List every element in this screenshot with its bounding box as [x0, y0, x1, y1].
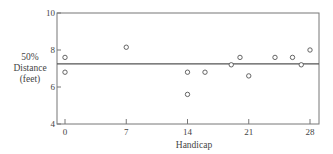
- data-point: [273, 55, 277, 59]
- data-point: [299, 63, 303, 67]
- data-point: [290, 55, 294, 59]
- data-points: [63, 45, 312, 97]
- scatter-chart: 46810 07142128 50% Distance (feet) Handi…: [0, 0, 333, 154]
- x-tick-label: 14: [183, 127, 193, 137]
- y-axis: 46810: [46, 8, 61, 129]
- data-point: [185, 92, 189, 96]
- data-point: [229, 63, 233, 67]
- data-point: [185, 70, 189, 74]
- x-axis: 07142128: [63, 119, 315, 137]
- y-axis-label-line-2: Distance: [13, 63, 46, 73]
- x-tick-label: 7: [124, 127, 129, 137]
- data-point: [124, 45, 128, 49]
- x-tick-label: 28: [306, 127, 316, 137]
- y-tick-label: 8: [51, 45, 56, 55]
- y-tick-label: 10: [46, 8, 56, 18]
- x-axis-label: Handicap: [176, 140, 213, 150]
- y-axis-label-line-1: 50%: [21, 52, 39, 62]
- data-point: [63, 55, 67, 59]
- plot-frame: [57, 13, 319, 124]
- data-point: [63, 70, 67, 74]
- x-tick-label: 21: [244, 127, 253, 137]
- y-tick-label: 4: [51, 119, 56, 129]
- data-point: [238, 55, 242, 59]
- y-tick-label: 6: [51, 82, 56, 92]
- data-point: [247, 74, 251, 78]
- y-axis-label-line-3: (feet): [20, 74, 41, 85]
- data-point: [203, 70, 207, 74]
- x-tick-label: 0: [63, 127, 68, 137]
- data-point: [308, 48, 312, 52]
